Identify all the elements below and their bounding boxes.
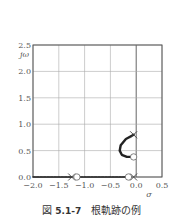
x-axis-label: σ xyxy=(146,190,152,199)
figure-caption: 図 5.1-7 根軌跡の例 xyxy=(0,202,183,217)
y-axis-label: jω xyxy=(18,50,29,59)
caption-prefix: 図 xyxy=(42,205,52,216)
svg-text:2.0: 2.0 xyxy=(18,67,31,76)
svg-text:−0.5: −0.5 xyxy=(101,181,120,190)
svg-text:−1.5: −1.5 xyxy=(49,181,68,190)
svg-text:1.5: 1.5 xyxy=(18,94,31,103)
caption-text: 根軌跡の例 xyxy=(91,205,141,216)
root-locus-chart: −2.0−1.5−1.0−0.50.00.50.00.51.01.52.02.5… xyxy=(0,0,183,224)
svg-text:0.5: 0.5 xyxy=(18,147,31,156)
svg-text:0.0: 0.0 xyxy=(18,173,31,182)
grid xyxy=(33,45,162,177)
svg-text:1.0: 1.0 xyxy=(18,120,31,129)
plot-frame xyxy=(33,45,162,177)
caption-number: 5.1-7 xyxy=(55,206,81,216)
svg-text:0.0: 0.0 xyxy=(130,181,143,190)
tick-labels: −2.0−1.5−1.0−0.50.00.50.00.51.01.52.02.5 xyxy=(18,41,168,190)
svg-text:2.5: 2.5 xyxy=(18,41,31,50)
locus-branches xyxy=(33,135,134,177)
svg-text:−2.0: −2.0 xyxy=(23,181,42,190)
svg-text:−1.0: −1.0 xyxy=(75,181,94,190)
svg-text:0.5: 0.5 xyxy=(156,181,169,190)
